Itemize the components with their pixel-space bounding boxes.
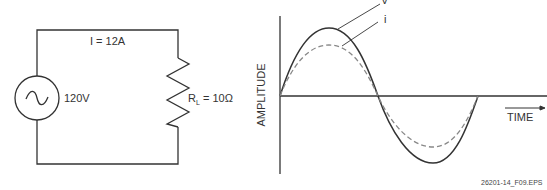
current-waveform-label: i — [384, 13, 386, 25]
current-label: I = 12A — [90, 35, 125, 47]
source-voltage-label: 120V — [64, 92, 90, 104]
resistor-value: = 10Ω — [200, 92, 233, 104]
resistor-icon — [167, 58, 189, 127]
resistor-label: RL = 10Ω — [188, 92, 233, 106]
voltage-waveform-label: V — [381, 0, 388, 6]
resistor-symbol: R — [188, 92, 196, 104]
y-axis-label: AMPLITUDE — [255, 60, 267, 130]
ac-source-icon — [15, 76, 59, 120]
circuit-wires — [37, 30, 189, 164]
current-leader — [342, 22, 378, 46]
figure-id: 26201-14_F09.EPS — [481, 179, 543, 186]
time-arrow-icon — [505, 106, 545, 110]
graph-axes — [280, 16, 547, 174]
x-axis-label: TIME — [507, 111, 533, 123]
